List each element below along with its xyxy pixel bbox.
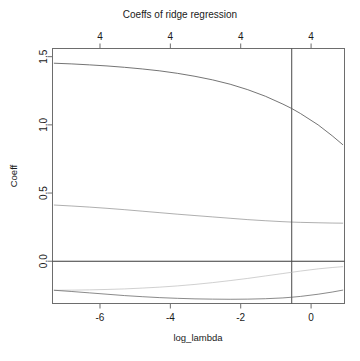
curve-coef_1 — [54, 63, 342, 144]
chart-title: Coeffs of ridge regression — [123, 9, 237, 20]
plot-frame — [53, 49, 345, 304]
curve-coef_3 — [54, 267, 342, 291]
y-tick-label: 1.5 — [38, 49, 49, 63]
coefficient-curves — [54, 63, 342, 299]
x-tick-label: -4 — [166, 312, 175, 323]
left-axis: 0.00.51.01.5 — [38, 49, 53, 268]
top-axis-tick-label: 4 — [168, 31, 174, 42]
y-axis-label: Coeff — [8, 164, 19, 187]
curve-coef_4 — [54, 290, 342, 299]
top-axis-tick-label: 4 — [238, 31, 244, 42]
bottom-axis: -6-4-20 — [53, 304, 315, 323]
plot-svg: Coeffs of ridge regression 4444 -6-4-20 … — [0, 0, 360, 361]
top-axis-tick-label: 4 — [97, 31, 103, 42]
reference-lines — [53, 49, 345, 304]
x-tick-label: -2 — [236, 312, 245, 323]
x-tick-label: 0 — [308, 312, 314, 323]
y-tick-label: 1.0 — [38, 117, 49, 131]
top-axis: 4444 — [97, 31, 314, 49]
curve-coef_2 — [54, 205, 342, 223]
y-tick-label: 0.0 — [38, 254, 49, 268]
x-tick-label: -6 — [96, 312, 105, 323]
top-axis-tick-label: 4 — [308, 31, 314, 42]
y-tick-label: 0.5 — [38, 186, 49, 200]
x-axis-label: log_lambda — [173, 332, 223, 343]
ridge-coefficient-plot: Coeffs of ridge regression 4444 -6-4-20 … — [0, 0, 360, 361]
